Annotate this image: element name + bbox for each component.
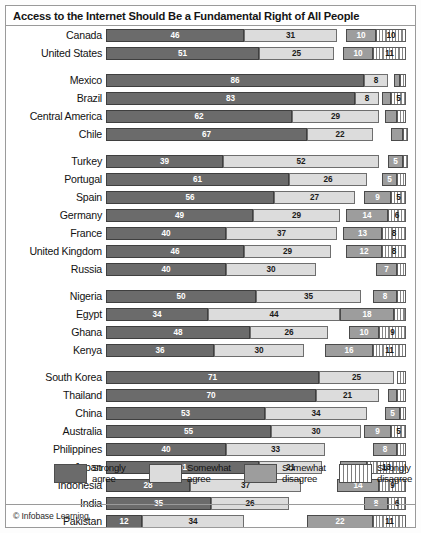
- bar-track: 4826910: [106, 326, 406, 339]
- segment-value: 18: [362, 310, 371, 319]
- bar-track: 533425: [106, 407, 406, 420]
- segment-strongly-agree: 71: [106, 371, 319, 384]
- segment-value: 11: [385, 517, 394, 526]
- segment-value: 46: [170, 31, 179, 40]
- segment-value: 22: [335, 517, 344, 526]
- segment-value: 39: [160, 157, 169, 166]
- segment-somewhat-disagree: 10: [343, 47, 373, 60]
- segment-strongly-disagree: 3: [397, 110, 406, 123]
- bar-track: 612635: [106, 173, 406, 186]
- segment-somewhat-agree: 33: [226, 443, 325, 456]
- segment-strongly-agree: 12: [106, 515, 142, 528]
- segment-value: 31: [286, 31, 295, 40]
- segment-strongly-agree: 39: [106, 155, 223, 168]
- bar-track: 403338: [106, 443, 406, 456]
- legend-item-strongly-disagree: Strongly disagree: [339, 463, 412, 484]
- bar-row: Mexico86822: [6, 73, 415, 91]
- segment-somewhat-disagree: 3: [388, 389, 397, 402]
- country-label: United Kingdom: [6, 244, 102, 259]
- segment-value: 13: [358, 229, 367, 238]
- segment-value: 33: [271, 445, 280, 454]
- segment-somewhat-agree: 26: [250, 326, 328, 339]
- segment-somewhat-agree: 26: [289, 173, 367, 186]
- bar-row: Australia553059: [6, 424, 415, 442]
- plot-area: Canada46311010United States51251110Mexic…: [6, 26, 415, 528]
- bar-track: 4629812: [106, 245, 406, 258]
- segment-somewhat-agree: 34: [142, 515, 244, 528]
- swatch-strongly-agree-icon: [54, 464, 87, 483]
- country-group: Turkey395215Portugal612635Spain562759Ger…: [6, 154, 415, 280]
- segment-strongly-disagree: 11: [373, 47, 406, 60]
- segment-value: 5: [393, 157, 398, 166]
- segment-strongly-agree: 50: [106, 290, 256, 303]
- bar-row: Thailand702133: [6, 388, 415, 406]
- segment-somewhat-disagree: 16: [325, 344, 373, 357]
- bar-row: Turkey395215: [6, 154, 415, 172]
- bar-row: Ghana4826910: [6, 325, 415, 343]
- country-group: Nigeria503538Egypt3444418Ghana4826910Ken…: [6, 289, 415, 361]
- country-label: Chile: [6, 127, 102, 142]
- segment-somewhat-disagree: 8: [373, 443, 397, 456]
- bar-track: 46311010: [106, 29, 406, 42]
- group-separator: [6, 361, 415, 370]
- segment-value: 40: [161, 265, 170, 274]
- bar-track: 672214: [106, 128, 406, 141]
- country-label: Thailand: [6, 388, 102, 403]
- segment-somewhat-disagree: 14: [346, 209, 388, 222]
- bar-row: Canada46311010: [6, 28, 415, 46]
- segment-value: 40: [161, 229, 170, 238]
- segment-value: 11: [385, 346, 394, 355]
- segment-value: 5: [396, 94, 401, 103]
- segment-value: 10: [356, 31, 365, 40]
- segment-somewhat-agree: 8: [364, 74, 388, 87]
- segment-somewhat-disagree: 4: [385, 110, 397, 123]
- bar-track: 562759: [106, 191, 406, 204]
- segment-value: 46: [170, 247, 179, 256]
- segment-somewhat-disagree: 10: [349, 326, 379, 339]
- segment-strongly-agree: 48: [106, 326, 250, 339]
- segment-somewhat-disagree: 5: [382, 173, 397, 186]
- country-label: Kenya: [6, 343, 102, 358]
- segment-somewhat-disagree: 12: [346, 245, 382, 258]
- bar-row: Philippines403338: [6, 442, 415, 460]
- segment-strongly-agree: 34: [106, 308, 208, 321]
- segment-somewhat-agree: 30: [271, 425, 361, 438]
- segment-somewhat-agree: 30: [226, 263, 316, 276]
- segment-value: 29: [283, 247, 292, 256]
- segment-somewhat-agree: 52: [223, 155, 379, 168]
- country-label: South Korea: [6, 370, 102, 385]
- bar-track: 71253: [106, 371, 406, 384]
- segment-strongly-agree: 70: [106, 389, 316, 402]
- segment-strongly-disagree: 8: [382, 245, 406, 258]
- bar-track: 12341122: [106, 515, 406, 528]
- segment-somewhat-agree: 29: [292, 110, 379, 123]
- segment-somewhat-agree: 8: [355, 92, 379, 105]
- segment-value: 8: [374, 76, 379, 85]
- segment-value: 21: [343, 391, 352, 400]
- bar-row: Portugal612635: [6, 172, 415, 190]
- segment-value: 5: [390, 409, 395, 418]
- bar-row: China533425: [6, 406, 415, 424]
- segment-somewhat-agree: 29: [244, 245, 331, 258]
- chart-frame: Access to the Internet Should Be a Funda…: [0, 0, 421, 533]
- segment-value: 50: [176, 292, 185, 301]
- segment-value: 11: [385, 49, 394, 58]
- chart-card: Access to the Internet Should Be a Funda…: [5, 5, 416, 528]
- country-label: Brazil: [6, 91, 102, 106]
- segment-strongly-disagree: 3: [397, 173, 406, 186]
- legend-label: Strongly disagree: [377, 463, 412, 484]
- segment-strongly-disagree: 2: [400, 74, 406, 87]
- segment-strongly-disagree: 5: [391, 425, 406, 438]
- swatch-strongly-disagree-icon: [339, 464, 372, 483]
- country-label: United States: [6, 46, 102, 61]
- segment-value: 62: [194, 112, 203, 121]
- segment-value: 83: [226, 94, 235, 103]
- segment-value: 8: [392, 229, 397, 238]
- bar-track: 503538: [106, 290, 406, 303]
- segment-value: 36: [155, 346, 164, 355]
- segment-somewhat-agree: 30: [214, 344, 304, 357]
- segment-strongly-disagree: 9: [379, 326, 406, 339]
- segment-somewhat-agree: 27: [274, 191, 355, 204]
- bar-row: Kenya36301116: [6, 343, 415, 361]
- segment-value: 7: [384, 265, 389, 274]
